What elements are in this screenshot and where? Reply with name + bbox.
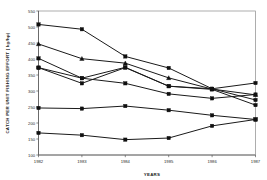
y-tick-label: 300: [28, 89, 36, 94]
y-axis-ticks: 100150200250300350400450500550: [28, 9, 38, 158]
data-point-marker: [37, 131, 40, 134]
line-chart: 100150200250300350400450500550 198219831…: [0, 0, 267, 180]
x-tick-label: 1987: [251, 159, 261, 164]
data-series-group: [36, 23, 257, 142]
data-point-marker: [167, 109, 170, 112]
y-axis-title: CATCH PER UNIT FISHING EFFORT ( kg/hp): [5, 32, 10, 133]
plot-frame: [39, 11, 256, 155]
data-point-marker: [37, 106, 40, 109]
data-point-marker: [124, 138, 127, 141]
data-point-marker: [36, 42, 40, 46]
data-point-marker: [37, 66, 40, 69]
data-point-marker: [124, 66, 127, 69]
data-point-marker: [37, 57, 40, 60]
data-point-marker: [80, 28, 83, 31]
data-point-marker: [254, 118, 257, 121]
x-axis-ticks: 198219831984198519861987: [34, 155, 261, 164]
data-point-marker: [254, 103, 257, 106]
y-tick-label: 350: [28, 73, 36, 78]
y-tick-label: 200: [28, 121, 36, 126]
data-point-marker: [210, 114, 213, 117]
y-tick-label: 250: [28, 105, 36, 110]
data-series: [37, 66, 257, 100]
y-tick-label: 550: [28, 9, 36, 14]
y-tick-label: 500: [28, 25, 36, 30]
data-point-marker: [124, 55, 127, 58]
chart-figure: 100150200250300350400450500550 198219831…: [0, 0, 267, 180]
data-point-marker: [80, 77, 83, 80]
data-point-marker: [210, 97, 213, 100]
y-tick-label: 450: [28, 41, 36, 46]
data-point-marker: [210, 124, 213, 127]
data-point-marker: [167, 92, 170, 95]
data-series: [37, 66, 257, 107]
data-point-marker: [80, 133, 83, 136]
series-line: [39, 119, 256, 139]
data-point-marker: [80, 107, 83, 110]
x-tick-label: 1984: [121, 159, 131, 164]
x-tick-label: 1985: [164, 159, 174, 164]
data-point-marker: [167, 136, 170, 139]
data-point-marker: [210, 88, 213, 91]
data-point-marker: [254, 81, 257, 84]
x-tick-label: 1983: [77, 159, 87, 164]
data-series: [37, 23, 257, 91]
x-tick-label: 1986: [207, 159, 217, 164]
data-point-marker: [167, 66, 170, 69]
data-point-marker: [254, 98, 257, 101]
y-tick-label: 100: [28, 153, 36, 158]
data-point-marker: [124, 82, 127, 85]
data-point-marker: [37, 23, 40, 26]
y-tick-label: 400: [28, 57, 36, 62]
data-series: [37, 104, 257, 121]
x-tick-label: 1982: [34, 159, 44, 164]
x-axis-title: YEARS: [144, 172, 160, 177]
data-point-marker: [167, 85, 170, 88]
data-point-marker: [80, 82, 83, 85]
data-series: [37, 118, 257, 142]
data-point-marker: [254, 93, 257, 96]
series-line: [39, 106, 256, 119]
data-point-marker: [124, 104, 127, 107]
y-tick-label: 150: [28, 137, 36, 142]
